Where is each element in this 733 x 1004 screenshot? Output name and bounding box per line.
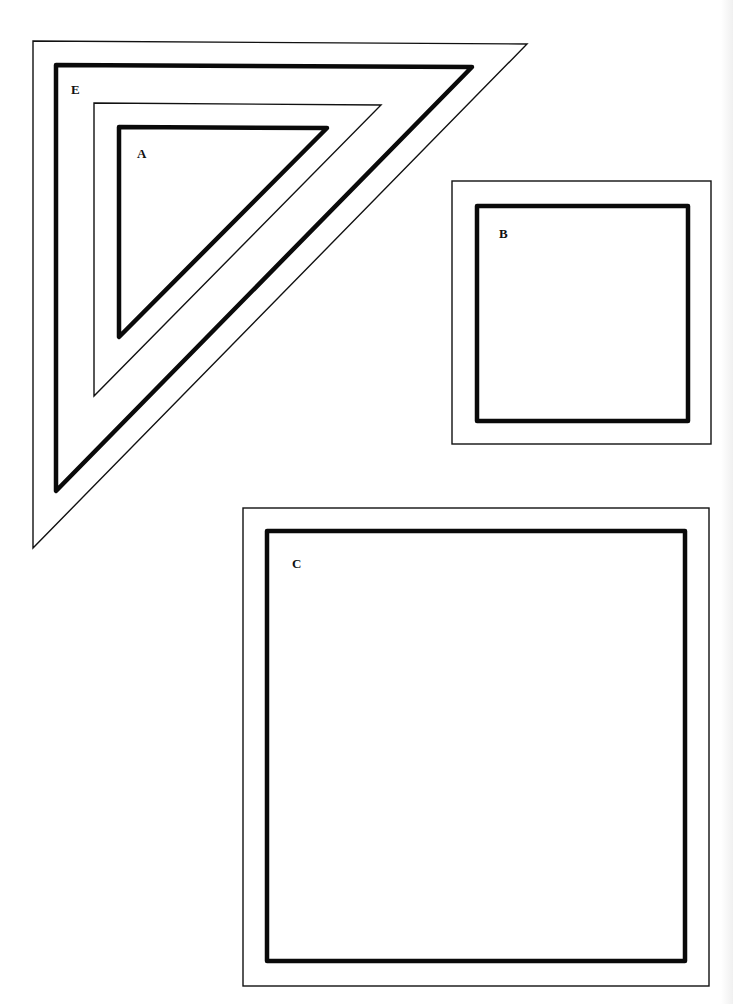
shape-c-outer-frame <box>243 508 709 986</box>
shape-e-outer-frame <box>33 41 527 548</box>
shape-c-label: C <box>292 556 301 571</box>
shape-e-label: E <box>71 82 80 97</box>
shape-b: B <box>452 181 711 444</box>
shape-c: C <box>243 508 709 986</box>
shape-b-outer-frame <box>452 181 711 444</box>
shape-b-label: B <box>499 226 508 241</box>
shape-a-label: A <box>137 146 147 161</box>
shape-a-inner-outline <box>119 127 327 337</box>
shape-b-inner-outline <box>477 206 688 421</box>
shape-c-inner-outline <box>267 531 685 961</box>
diagram-canvas: E A B C <box>0 0 733 1004</box>
shape-e: E <box>33 41 527 548</box>
shape-a: A <box>94 103 381 396</box>
